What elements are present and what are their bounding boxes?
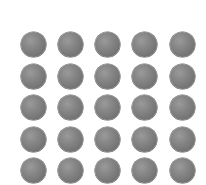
sphere-r4-c3 bbox=[95, 127, 120, 152]
sphere-r5-c1 bbox=[21, 158, 46, 183]
sphere-r2-c4 bbox=[132, 64, 157, 89]
sphere-r5-c2 bbox=[58, 158, 83, 183]
sphere-r3-c1 bbox=[21, 95, 46, 120]
sphere-r2-c1 bbox=[21, 64, 46, 89]
sphere-r3-c5 bbox=[170, 95, 195, 120]
sphere-r2-c3 bbox=[95, 64, 120, 89]
sphere-r2-c5 bbox=[170, 64, 195, 89]
sphere-r1-c4 bbox=[132, 32, 157, 57]
sphere-r3-c3 bbox=[95, 95, 120, 120]
sphere-r3-c2 bbox=[58, 95, 83, 120]
sphere-r2-c2 bbox=[58, 64, 83, 89]
sphere-grid bbox=[0, 0, 206, 185]
sphere-r1-c1 bbox=[21, 32, 46, 57]
sphere-r5-c4 bbox=[132, 158, 157, 183]
sphere-r4-c4 bbox=[132, 127, 157, 152]
sphere-r4-c1 bbox=[21, 127, 46, 152]
sphere-r1-c5 bbox=[170, 32, 195, 57]
sphere-r5-c5 bbox=[170, 158, 195, 183]
sphere-r4-c5 bbox=[170, 127, 195, 152]
sphere-r1-c2 bbox=[58, 32, 83, 57]
sphere-r3-c4 bbox=[132, 95, 157, 120]
sphere-r5-c3 bbox=[95, 158, 120, 183]
sphere-r1-c3 bbox=[95, 32, 120, 57]
sphere-r4-c2 bbox=[58, 127, 83, 152]
